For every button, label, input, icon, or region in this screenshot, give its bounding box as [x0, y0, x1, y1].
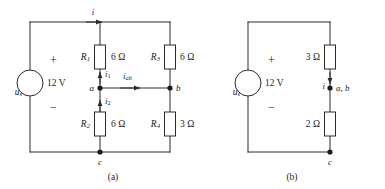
current-i-label: i: [92, 8, 95, 17]
node-c-label: c: [98, 158, 102, 167]
caption-panel-b: (b): [286, 173, 297, 183]
source-a-value-label: 12 V: [47, 79, 66, 89]
resistor-r1-value: 6 Ω: [111, 53, 125, 63]
node-a-label: a: [90, 84, 95, 93]
node-b-label: b: [176, 84, 181, 93]
resistor-r4-value: 3 Ω: [180, 120, 194, 130]
circuit-figure: i us + 12 V − R1 6 Ω R2 6 Ω R3 6 Ω R4 3 …: [0, 0, 385, 189]
source-a-name-label: us: [15, 88, 22, 98]
node-a-dot: [97, 85, 102, 90]
resistor-r2-label: R2: [81, 120, 90, 130]
resistor-b-lower-body: [325, 112, 336, 136]
resistor-r1-label: R1: [81, 53, 90, 63]
source-b-value-label: 12 V: [265, 79, 284, 89]
node-c-dot: [97, 149, 102, 154]
source-a-minus-label: −: [50, 101, 57, 113]
source-b-minus-label: −: [268, 101, 275, 113]
current-i1-label: i1: [105, 70, 111, 80]
resistor-r1-body: [95, 45, 106, 69]
source-a-plus-label: +: [50, 54, 57, 66]
node-c-b-label: c: [328, 158, 332, 167]
resistor-r2-value: 6 Ω: [111, 120, 125, 130]
node-b-dot: [167, 85, 172, 90]
resistor-r3-label: R3: [151, 53, 160, 63]
resistor-b-lower-value: 2 Ω: [306, 120, 320, 130]
current-i2-label: i2: [105, 97, 111, 107]
panel-a-nodes: [97, 85, 172, 154]
resistor-r2-body: [95, 112, 106, 136]
panel-a-resistors: [95, 45, 176, 136]
resistor-r3-value: 6 Ω: [180, 53, 194, 63]
caption-panel-a: (a): [108, 173, 119, 183]
resistor-r3-body: [165, 45, 176, 69]
source-b-plus-label: +: [268, 54, 275, 66]
source-b-name-label: us: [233, 88, 240, 98]
resistor-b-upper-body: [325, 45, 336, 69]
current-i-b-label: i: [322, 82, 325, 91]
current-iab-label: iab: [123, 72, 132, 82]
node-c-b-dot: [327, 149, 332, 154]
node-ab-dot: [327, 85, 332, 90]
node-ab-label: a, b: [336, 84, 350, 93]
resistor-b-upper-value: 3 Ω: [306, 53, 320, 63]
resistor-r4-body: [165, 112, 176, 136]
resistor-r4-label: R4: [151, 120, 160, 130]
